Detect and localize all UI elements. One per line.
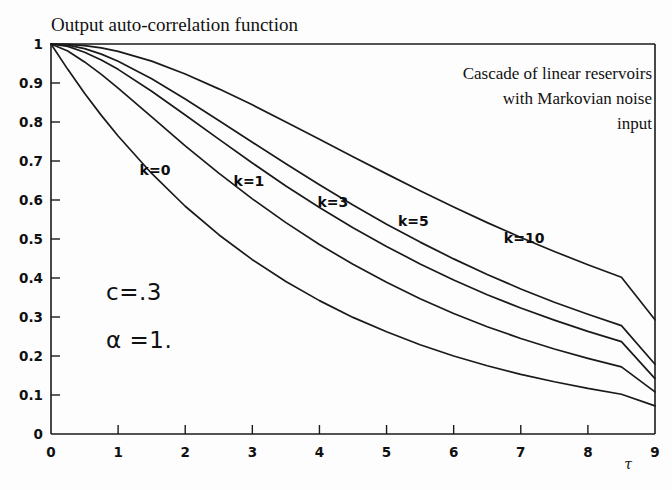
x-tick-label: 3 <box>248 444 257 460</box>
auto-correlation-plot: Output auto-correlation function 00.10.2… <box>0 0 672 490</box>
y-axis-ticks: 00.10.20.30.40.50.60.70.80.91 <box>19 36 60 442</box>
curve-label-k5: k=5 <box>398 213 429 229</box>
x-tick-label: 6 <box>449 444 458 460</box>
y-tick-label: 0.7 <box>19 153 43 169</box>
chart-title: Output auto-correlation function <box>51 14 298 35</box>
curve-label-k3: k=3 <box>317 194 348 210</box>
x-tick-label: 7 <box>516 444 525 460</box>
y-tick-label: 0 <box>34 426 43 442</box>
y-tick-label: 0.5 <box>19 231 43 247</box>
y-tick-label: 0.6 <box>19 192 43 208</box>
curve-label-k10: k=10 <box>504 230 545 246</box>
x-tick-label: 5 <box>382 444 391 460</box>
note-line-3: input <box>617 114 652 133</box>
y-tick-label: 0.4 <box>19 270 43 286</box>
x-tick-label: 2 <box>181 444 190 460</box>
y-tick-label: 0.2 <box>19 348 43 364</box>
x-tick-label: 0 <box>46 444 55 460</box>
y-tick-label: 0.9 <box>19 75 43 91</box>
parameter-c: c=.3 <box>106 279 162 305</box>
x-tick-label: 4 <box>315 444 324 460</box>
parameter-alpha: α =1. <box>106 327 172 353</box>
x-axis-ticks: 0123456789 <box>46 425 659 460</box>
curve-label-k1: k=1 <box>234 173 265 189</box>
y-tick-label: 0.1 <box>19 387 43 403</box>
note-line-2: with Markovian noise <box>503 89 652 108</box>
note-line-1: Cascade of linear reservoirs <box>463 64 652 83</box>
curve-label-group: k=0k=1k=3k=5k=10 <box>140 162 545 246</box>
x-tick-label: 8 <box>583 444 592 460</box>
chart-figure: Output auto-correlation function 00.10.2… <box>0 0 672 490</box>
y-tick-label: 0.8 <box>19 114 43 130</box>
x-axis-label: τ <box>624 456 632 472</box>
x-tick-label: 9 <box>650 444 659 460</box>
curve-label-k0: k=0 <box>140 162 171 178</box>
y-tick-label: 0.3 <box>19 309 43 325</box>
y-tick-label: 1 <box>34 36 43 52</box>
x-tick-label: 1 <box>113 444 122 460</box>
